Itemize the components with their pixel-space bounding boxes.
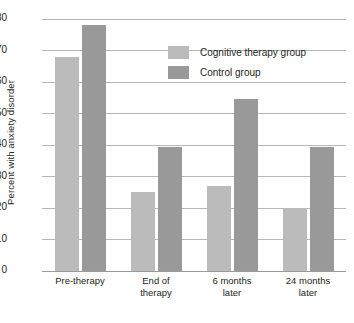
x-axis-label-line: 24 months xyxy=(270,275,346,287)
y-tick-label: 80 xyxy=(0,13,7,23)
legend: Cognitive therapy groupControl group xyxy=(168,44,348,84)
y-tick-label: 0 xyxy=(0,265,7,275)
x-axis-label-line: 6 months xyxy=(194,275,270,287)
legend-label: Control group xyxy=(200,67,261,78)
bar xyxy=(310,147,334,271)
x-axis-label-line: Pre-therapy xyxy=(42,275,118,287)
x-axis-label-line: later xyxy=(194,287,270,299)
y-tick-label: 70 xyxy=(0,45,7,55)
y-tick-label: 60 xyxy=(0,76,7,86)
y-tick-label: 40 xyxy=(0,139,7,149)
x-axis-label: End oftherapy xyxy=(118,275,194,298)
y-tick-label: 10 xyxy=(0,234,7,244)
x-axis-label: 6 monthslater xyxy=(194,275,270,298)
y-tick-label: 30 xyxy=(0,171,7,181)
x-axis-label: 24 monthslater xyxy=(270,275,346,298)
x-axis-label: Pre-therapy xyxy=(42,275,118,287)
x-axis-label-line: End of xyxy=(118,275,194,287)
bar xyxy=(55,57,79,271)
bar xyxy=(283,208,307,271)
x-axis-label-line: later xyxy=(270,287,346,299)
bar xyxy=(207,186,231,271)
x-axis-labels: Pre-therapyEnd oftherapy6 monthslater24 … xyxy=(42,275,346,319)
legend-item: Control group xyxy=(168,64,348,81)
legend-swatch xyxy=(168,46,189,59)
bar xyxy=(82,25,106,271)
legend-item: Cognitive therapy group xyxy=(168,44,348,61)
x-axis-label-line: therapy xyxy=(118,287,194,299)
bar-chart: Percent with anxiety disorder 0102030405… xyxy=(0,0,354,323)
y-tick-label: 50 xyxy=(0,108,7,118)
bar xyxy=(158,147,182,271)
bar xyxy=(234,99,258,271)
y-tick-label: 20 xyxy=(0,202,7,212)
bar xyxy=(131,192,155,271)
legend-label: Cognitive therapy group xyxy=(200,47,306,58)
legend-swatch xyxy=(168,66,189,79)
